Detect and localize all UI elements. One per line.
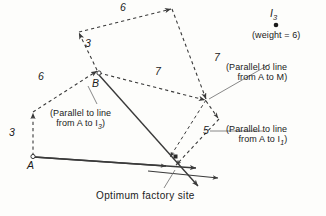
- annotation-parallel-i1-line2: from A to I1): [226, 134, 287, 147]
- annotation-weight: (weight = 6): [252, 30, 300, 40]
- label-segment-lower-5: 5: [203, 125, 209, 137]
- label-point-b: B: [92, 78, 99, 90]
- annotation-parallel-i3: (Parallel to line from A to I3): [50, 108, 111, 131]
- annotation-parallel-i1: (Parallel to line from A to I1): [226, 124, 287, 147]
- vector-zigzag-down: [206, 101, 218, 118]
- point-a-marker: [31, 154, 35, 158]
- label-segment-top-6: 6: [120, 2, 126, 14]
- label-segment-left-vertical-3: 3: [9, 127, 15, 139]
- point-b-marker: [97, 71, 101, 75]
- vector-secondary-into-optimum: [170, 100, 206, 157]
- annotation-parallel-am: (Parallel to line from A to M): [226, 62, 287, 82]
- label-segment-middle-7: 7: [155, 66, 161, 78]
- point-i3-marker: [274, 23, 279, 28]
- label-segment-left-lower-6: 6: [38, 71, 44, 83]
- annotation-parallel-i1-line1: (Parallel to line: [226, 124, 287, 134]
- ray-a-horizontal: [34, 157, 196, 168]
- ray-b-steep: [99, 75, 198, 186]
- annotation-parallel-i3-line2: from A to I3): [50, 118, 111, 131]
- caption-optimum-factory-site: Optimum factory site: [96, 190, 195, 201]
- label-segment-b-upper-3: 3: [85, 38, 91, 50]
- vector-lower-5: [176, 119, 219, 165]
- label-point-a: A: [27, 160, 34, 172]
- annotation-parallel-i3-line1: (Parallel to line: [50, 108, 111, 118]
- label-point-i3-subscript: 3: [273, 13, 277, 22]
- figure-canvas: horizontal-ish solid ray --> steep solid…: [0, 0, 326, 216]
- optimum-site-marker: [174, 155, 178, 159]
- vector-right-7: [172, 9, 206, 99]
- ray-shallow: [148, 171, 218, 178]
- annotation-parallel-am-line1: (Parallel to line: [226, 62, 287, 72]
- vector-middle-7: [99, 73, 205, 100]
- label-segment-right-7: 7: [214, 52, 220, 64]
- label-point-i3: I3: [270, 8, 277, 22]
- annotation-parallel-am-line2: from A to M): [226, 72, 287, 82]
